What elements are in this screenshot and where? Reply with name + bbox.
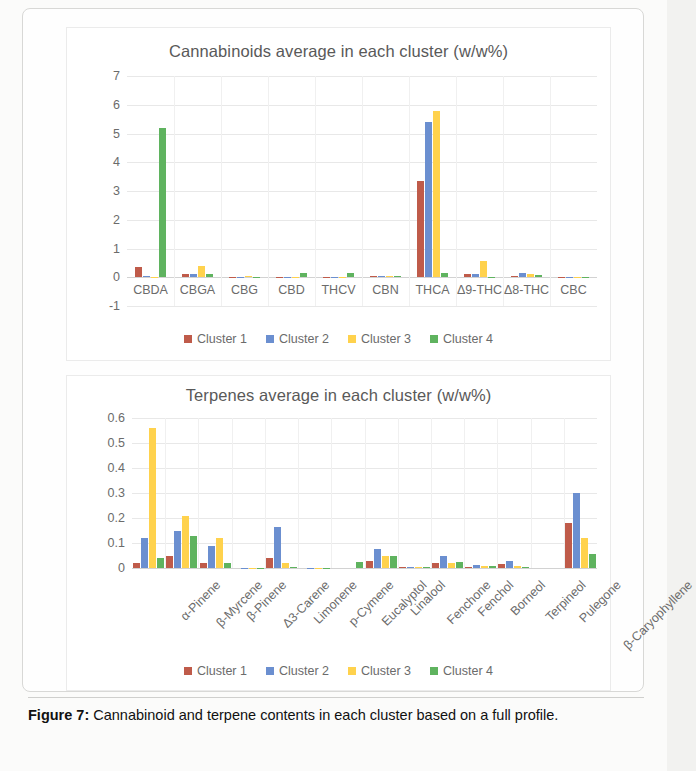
bar-cluster-2[interactable] <box>374 549 381 568</box>
bar-cluster-4[interactable] <box>257 568 264 569</box>
bar-cluster-2[interactable] <box>506 561 513 569</box>
bar-cluster-1[interactable] <box>417 181 424 277</box>
bar-cluster-3[interactable] <box>382 556 389 569</box>
legend-item-4[interactable]: Cluster 4 <box>430 664 493 678</box>
bar-cluster-2[interactable] <box>190 274 197 278</box>
category-separator <box>221 76 222 306</box>
bar-group <box>362 276 409 278</box>
bar-cluster-3[interactable] <box>514 566 521 568</box>
bar-cluster-2[interactable] <box>440 556 447 569</box>
bar-cluster-1[interactable] <box>399 567 406 568</box>
bar-cluster-2[interactable] <box>407 567 414 568</box>
bar-cluster-2[interactable] <box>519 273 526 277</box>
bar-cluster-4[interactable] <box>582 277 589 278</box>
bar-cluster-3[interactable] <box>527 274 534 277</box>
legend-item-1[interactable]: Cluster 1 <box>184 664 247 678</box>
bar-cluster-2[interactable] <box>174 531 181 569</box>
bar-cluster-3[interactable] <box>574 277 581 278</box>
bar-cluster-2[interactable] <box>274 527 281 568</box>
legend-item-2[interactable]: Cluster 2 <box>266 664 329 678</box>
bar-cluster-2[interactable] <box>237 277 244 278</box>
bar-cluster-4[interactable] <box>488 277 495 278</box>
bar-cluster-4[interactable] <box>157 558 164 568</box>
bar-cluster-1[interactable] <box>166 556 173 569</box>
bar-cluster-1[interactable] <box>135 267 142 277</box>
y-axis-tick-label: 7 <box>113 69 120 83</box>
bar-cluster-1[interactable] <box>465 567 472 569</box>
legend-item-4[interactable]: Cluster 4 <box>430 332 493 346</box>
legend-item-2[interactable]: Cluster 2 <box>266 332 329 346</box>
bar-cluster-4[interactable] <box>356 562 363 568</box>
bar-cluster-3[interactable] <box>315 568 322 569</box>
bar-cluster-3[interactable] <box>448 563 455 569</box>
bar-cluster-3[interactable] <box>149 428 156 568</box>
bar-cluster-2[interactable] <box>307 568 314 569</box>
bar-cluster-1[interactable] <box>200 563 207 568</box>
bar-cluster-3[interactable] <box>386 276 393 277</box>
bar-cluster-4[interactable] <box>159 128 166 278</box>
bar-cluster-3[interactable] <box>282 563 289 568</box>
bar-cluster-4[interactable] <box>347 273 354 277</box>
category-separator <box>497 418 498 568</box>
bar-cluster-2[interactable] <box>241 568 248 569</box>
bar-cluster-4[interactable] <box>489 566 496 569</box>
bar-cluster-4[interactable] <box>456 562 463 568</box>
terpenes-chart: Terpenes average in each cluster (w/w%) … <box>66 375 611 691</box>
category-separator <box>503 76 504 306</box>
bar-cluster-2[interactable] <box>141 538 148 568</box>
y-axis-tick-label: 0.6 <box>108 411 125 425</box>
bar-cluster-1[interactable] <box>366 561 373 569</box>
bar-cluster-3[interactable] <box>151 277 158 278</box>
bar-cluster-4[interactable] <box>300 273 307 278</box>
bar-cluster-4[interactable] <box>206 274 213 278</box>
bar-cluster-4[interactable] <box>589 554 596 568</box>
legend-label: Cluster 3 <box>361 664 411 678</box>
bar-cluster-4[interactable] <box>224 563 231 568</box>
bar-cluster-1[interactable] <box>464 274 471 278</box>
bar-cluster-1[interactable] <box>182 274 189 277</box>
bar-cluster-4[interactable] <box>394 276 401 278</box>
bar-cluster-1[interactable] <box>432 563 439 568</box>
cannabinoids-legend: Cluster 1Cluster 2Cluster 3Cluster 4 <box>67 332 610 346</box>
bar-cluster-3[interactable] <box>481 566 488 568</box>
bar-cluster-4[interactable] <box>190 536 197 569</box>
legend-item-1[interactable]: Cluster 1 <box>184 332 247 346</box>
bar-group <box>409 111 456 278</box>
bar-cluster-4[interactable] <box>323 568 330 569</box>
legend-swatch-icon <box>430 667 438 675</box>
bar-cluster-2[interactable] <box>472 274 479 277</box>
bar-cluster-3[interactable] <box>182 516 189 569</box>
bar-cluster-3[interactable] <box>480 261 487 277</box>
bar-cluster-4[interactable] <box>522 567 529 569</box>
category-separator <box>531 418 532 568</box>
bar-cluster-1[interactable] <box>498 564 505 568</box>
bar-cluster-3[interactable] <box>216 538 223 568</box>
bar-cluster-2[interactable] <box>378 276 385 277</box>
bar-cluster-3[interactable] <box>433 111 440 278</box>
bar-cluster-1[interactable] <box>565 523 572 568</box>
bar-cluster-1[interactable] <box>229 277 236 278</box>
bar-cluster-2[interactable] <box>425 122 432 277</box>
bar-cluster-4[interactable] <box>423 567 430 568</box>
bar-cluster-2[interactable] <box>208 546 215 569</box>
bar-cluster-2[interactable] <box>473 565 480 568</box>
bar-cluster-4[interactable] <box>535 275 542 277</box>
bar-cluster-1[interactable] <box>266 558 273 568</box>
bar-cluster-2[interactable] <box>143 276 150 277</box>
bar-cluster-3[interactable] <box>245 276 252 277</box>
bar-cluster-4[interactable] <box>441 273 448 277</box>
bar-cluster-4[interactable] <box>390 556 397 569</box>
bar-cluster-1[interactable] <box>370 276 377 277</box>
legend-item-3[interactable]: Cluster 3 <box>348 664 411 678</box>
x-axis-tick-label: Δ9-THC <box>457 283 502 297</box>
bar-cluster-3[interactable] <box>249 568 256 569</box>
bar-cluster-1[interactable] <box>511 276 518 277</box>
bar-cluster-3[interactable] <box>415 567 422 568</box>
bar-cluster-1[interactable] <box>133 563 140 568</box>
bar-cluster-2[interactable] <box>573 493 580 568</box>
bar-cluster-3[interactable] <box>581 538 588 568</box>
bar-cluster-4[interactable] <box>290 567 297 569</box>
bar-cluster-4[interactable] <box>253 277 260 278</box>
legend-item-3[interactable]: Cluster 3 <box>348 332 411 346</box>
bar-cluster-3[interactable] <box>198 266 205 278</box>
